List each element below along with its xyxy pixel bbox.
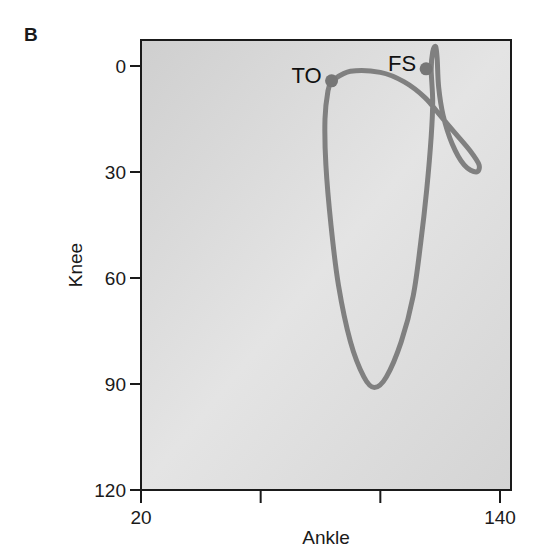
x-tick-label: 140 [484, 507, 516, 528]
event-marker-fs [420, 62, 433, 75]
y-axis-label: Knee [65, 243, 86, 287]
y-tick-label: 120 [94, 480, 126, 501]
y-tick-label: 30 [105, 162, 126, 183]
event-marker-to [325, 74, 338, 87]
event-label-to: TO [291, 63, 321, 88]
y-tick-label: 0 [115, 56, 126, 77]
y-tick-label: 60 [105, 268, 126, 289]
knee-ankle-chart: 0306090120 20140 TOFS Ankle Knee [0, 0, 541, 560]
y-tick-label: 90 [105, 374, 126, 395]
x-tick-label: 20 [130, 507, 151, 528]
y-axis: 0306090120 [94, 56, 141, 501]
x-axis-label: Ankle [302, 527, 350, 548]
x-axis: 20140 [130, 490, 515, 528]
event-label-fs: FS [388, 51, 416, 76]
